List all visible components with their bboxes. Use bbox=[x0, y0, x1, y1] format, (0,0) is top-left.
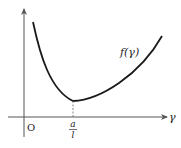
x-axis-label: γ bbox=[169, 111, 176, 124]
minimum-numerator: a bbox=[70, 119, 75, 129]
origin-label: O bbox=[27, 122, 35, 133]
convex-function-diagram: f(γ) γ O a l bbox=[0, 0, 181, 148]
function-curve bbox=[33, 22, 162, 101]
minimum-denominator: l bbox=[72, 130, 75, 140]
curve-label: f(γ) bbox=[119, 46, 139, 59]
